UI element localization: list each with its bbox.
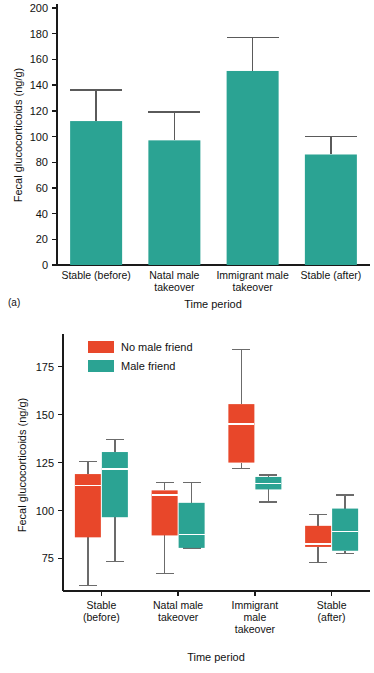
x-axis-title-b: Time period (187, 651, 245, 663)
figure-container: 020406080100120140160180200 Stable (befo… (0, 0, 374, 673)
x-category-label-b-1: Natal male (153, 599, 203, 611)
box-rect-1-0 (102, 452, 128, 517)
x-category-label-b-0: Stable (86, 599, 116, 611)
bar-0 (70, 121, 122, 265)
x-category-label-b-3: (after) (318, 611, 346, 623)
y-tick-label-a-40: 40 (36, 208, 48, 220)
y-tick-label-a-60: 60 (36, 182, 48, 194)
legend-label-0: No male friend (121, 341, 193, 353)
y-tick-label-a-140: 140 (30, 79, 48, 91)
y-tick-label-a-80: 80 (36, 156, 48, 168)
box-1-1 (179, 483, 205, 548)
x-axis-title-a: Time period (184, 298, 242, 310)
y-tick-label-a-200: 200 (30, 2, 48, 14)
x-category-label-a-2: Immigrant male (216, 269, 289, 281)
x-category-label-a-1: Natal male (149, 269, 199, 281)
box-0-2 (228, 350, 254, 469)
bar-1 (148, 140, 200, 265)
y-tick-label-a-120: 120 (30, 105, 48, 117)
box-0-0 (75, 462, 101, 586)
x-axis-category-labels-a: Stable (before)Natal maletakeoverImmigra… (61, 269, 361, 293)
x-category-label-a-3: Stable (after) (301, 269, 362, 281)
legend-b: No male friendMale friend (88, 341, 193, 372)
y-tick-label-a-20: 20 (36, 233, 48, 245)
bar-2 (227, 71, 279, 265)
box-0-3 (305, 514, 331, 562)
y-tick-label-b-150: 150 (36, 409, 54, 421)
legend-swatch-0 (88, 341, 114, 353)
x-category-label-b-0: (before) (83, 611, 120, 623)
y-tick-label-a-180: 180 (30, 28, 48, 40)
panel-b-box-chart: 75100125150175 Stable(before)Natal malet… (0, 320, 374, 673)
box-rect-1-3 (332, 509, 358, 551)
x-axis-category-labels-b: Stable(before)Natal maletakeoverImmigran… (83, 599, 347, 635)
box-chart-svg: 75100125150175 Stable(before)Natal malet… (0, 320, 374, 673)
y-tick-label-a-0: 0 (42, 259, 48, 271)
y-axis-title-b: Fecal glucocorticoids (ng/g) (16, 398, 28, 533)
bar-3 (305, 154, 357, 265)
x-category-label-a-1: takeover (154, 281, 195, 293)
x-category-label-b-1: takeover (158, 611, 199, 623)
box-group-b (75, 350, 358, 586)
bar-chart-svg: 020406080100120140160180200 Stable (befo… (0, 0, 374, 320)
x-category-label-b-3: Stable (317, 599, 347, 611)
legend-label-1: Male friend (121, 360, 175, 372)
legend-swatch-1 (88, 360, 114, 372)
box-1-3 (332, 495, 358, 553)
x-category-label-a-0: Stable (before) (61, 269, 130, 281)
bar-group-a (70, 71, 357, 265)
box-rect-1-1 (179, 503, 205, 548)
y-axis-tick-labels-b: 75100125150175 (36, 361, 54, 565)
y-tick-label-b-125: 125 (36, 457, 54, 469)
box-rect-0-2 (228, 404, 254, 462)
x-category-label-b-2: takeover (235, 623, 276, 635)
y-tick-label-b-100: 100 (36, 505, 54, 517)
y-axis-title-a: Fecal glucocorticoids (ng/g) (12, 68, 24, 203)
box-0-1 (152, 483, 178, 574)
box-1-2 (255, 475, 281, 502)
y-tick-label-b-175: 175 (36, 361, 54, 373)
box-1-0 (102, 440, 128, 562)
y-tick-label-a-160: 160 (30, 53, 48, 65)
panel-a-bar-chart: 020406080100120140160180200 Stable (befo… (0, 0, 374, 320)
x-category-label-b-2: Immigrant (232, 599, 279, 611)
y-tick-label-a-100: 100 (30, 131, 48, 143)
box-rect-0-0 (75, 474, 101, 537)
y-tick-label-b-75: 75 (42, 552, 54, 564)
x-category-label-b-2: male (243, 611, 266, 623)
panel-a-caption: (a) (8, 297, 20, 308)
box-rect-0-1 (152, 490, 178, 535)
x-category-label-a-2: takeover (232, 281, 273, 293)
y-axis-tick-labels-a: 020406080100120140160180200 (30, 2, 48, 271)
